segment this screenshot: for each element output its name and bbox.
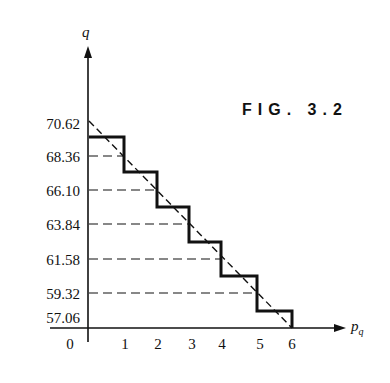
svg-text:66.10: 66.10: [46, 183, 80, 199]
svg-text:57.06: 57.06: [46, 310, 80, 326]
svg-text:61.58: 61.58: [46, 252, 80, 268]
svg-text:5: 5: [256, 336, 264, 352]
svg-text:6: 6: [288, 336, 296, 352]
x-tick-labels: 0 1 2 3 4 5 6: [66, 336, 296, 352]
x-axis-label: pq: [350, 318, 364, 337]
svg-text:68.36: 68.36: [46, 149, 80, 165]
y-axis-label: q: [82, 24, 90, 40]
x-axis-arrow-icon: [334, 324, 346, 332]
svg-text:70.62: 70.62: [46, 116, 80, 132]
step-function: [89, 137, 292, 328]
svg-text:59.32: 59.32: [46, 286, 80, 302]
y-tick-labels: 70.62 68.36 66.10 63.84 61.58 59.32 57.0…: [46, 116, 80, 326]
svg-text:1: 1: [121, 336, 129, 352]
chart: q pq 70.62 68.36 66.10 63.84 61.58 59.32…: [0, 0, 390, 383]
svg-text:63.84: 63.84: [46, 217, 80, 233]
svg-text:3: 3: [188, 336, 196, 352]
svg-text:2: 2: [154, 336, 162, 352]
reference-lines: [89, 156, 257, 293]
svg-text:4: 4: [218, 336, 226, 352]
svg-text:0: 0: [66, 336, 74, 352]
y-axis-arrow-icon: [84, 46, 92, 58]
